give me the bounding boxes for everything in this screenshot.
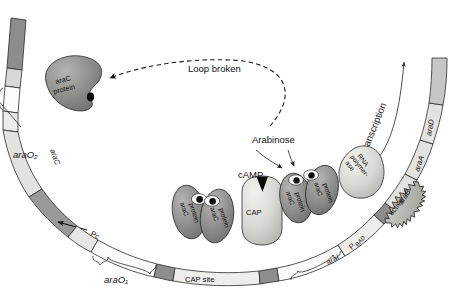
araO1-label: araO₁ [104,274,128,285]
ara-operon-diagram: Loop broken Arabinose Transcription araC… [0,0,451,291]
dna-segment-right-terminal [429,58,447,105]
loop-broken-label: Loop broken [188,63,241,74]
cap-protein-label: CAP [246,208,262,217]
cap-site-label: CAP site [185,275,214,284]
background [0,0,451,291]
araI-dimer-dot-b-icon [308,172,314,178]
figure-canvas: Loop broken Arabinose Transcription araC… [0,0,451,291]
camp-label: cAMP [238,169,263,180]
araC-dimer-left-dot-b-icon [209,198,216,205]
araO2-label: araO₂ [13,149,38,160]
araC-binding-notch-icon [87,93,94,102]
dna-segment-upper-left-mid [5,68,22,88]
araI-dimer-dot-a-icon [293,177,299,183]
arabinose-label: Arabinose [252,134,295,145]
dna-segment-spacer-2 [259,268,279,284]
araC-dimer-left-dot-a-icon [196,196,203,203]
